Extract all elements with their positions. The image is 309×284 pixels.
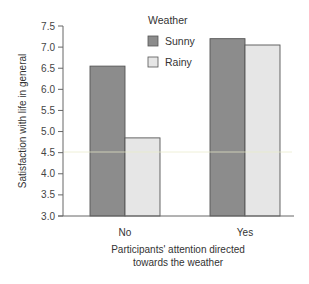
- y-tick-label: 5.5: [41, 105, 55, 116]
- y-tick-label: 6.0: [41, 84, 55, 95]
- legend-label-sunny: Sunny: [165, 35, 196, 47]
- legend: Weather Sunny Rainy: [148, 14, 196, 68]
- x-category-label-yes: Yes: [237, 227, 253, 238]
- y-axis-ticks: 3.03.54.04.55.05.56.06.57.07.5: [41, 21, 63, 222]
- y-tick-label: 4.0: [41, 168, 55, 179]
- legend-title: Weather: [148, 14, 188, 26]
- bar-no-rainy: [125, 138, 160, 216]
- y-tick-label: 3.0: [41, 211, 55, 222]
- y-tick-label: 7.5: [41, 21, 55, 32]
- bar-no-sunny: [90, 66, 125, 216]
- y-tick-label: 4.5: [41, 147, 55, 158]
- y-axis-title: Satisfaction with life in general: [17, 54, 28, 189]
- bar-yes-rainy: [245, 45, 280, 216]
- bar-chart: 3.03.54.04.55.05.56.06.57.07.5 NoYes Sat…: [0, 0, 309, 284]
- x-axis-title-line-2: towards the weather: [133, 257, 224, 268]
- y-tick-label: 7.0: [41, 42, 55, 53]
- legend-label-rainy: Rainy: [165, 56, 193, 68]
- y-tick-label: 5.0: [41, 126, 55, 137]
- legend-swatch-rainy: [148, 57, 158, 67]
- x-category-label-no: No: [119, 227, 132, 238]
- x-axis-title-line-1: Participants' attention directed: [111, 244, 245, 255]
- legend-swatch-sunny: [148, 36, 158, 46]
- y-tick-label: 3.5: [41, 189, 55, 200]
- y-tick-label: 6.5: [41, 63, 55, 74]
- x-axis-labels: NoYes: [119, 227, 254, 238]
- bar-yes-sunny: [210, 39, 245, 216]
